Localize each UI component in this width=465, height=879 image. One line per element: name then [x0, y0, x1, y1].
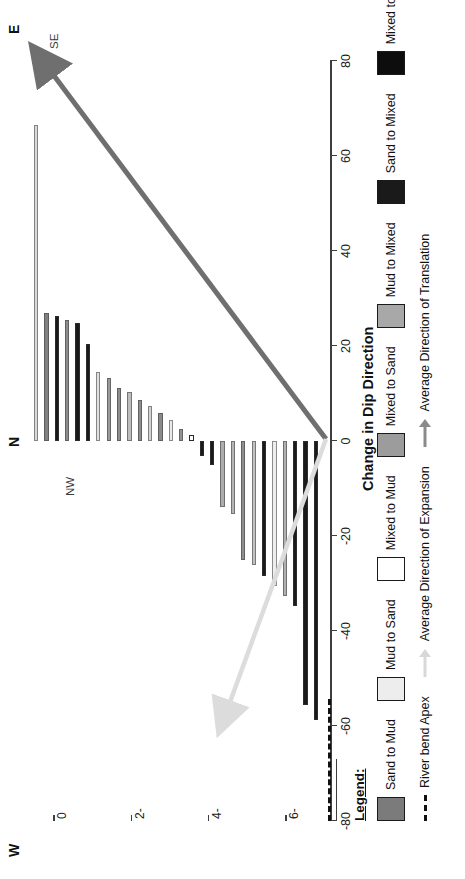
- legend: Legend: Sand to MudMud to SandMixed to M…: [352, 21, 442, 821]
- compass-label-southeast: SE: [48, 34, 60, 49]
- legend-item: Average Direction of Translation: [417, 234, 433, 449]
- legend-item-label: Mixed to Sand: [384, 346, 398, 426]
- legend-item: Sand to Mud: [377, 719, 405, 821]
- legend-item: River bend Apex: [418, 696, 432, 821]
- compass-label-east: E: [6, 25, 22, 34]
- value-tick: [330, 155, 337, 156]
- legend-item-label: River bend Apex: [418, 696, 432, 788]
- legend-item-label: Mud to Sand: [384, 599, 398, 670]
- legend-swatch: [377, 433, 405, 457]
- legend-swatch: [377, 677, 405, 701]
- compass-label-north: N: [6, 437, 22, 447]
- value-tick: [330, 630, 337, 631]
- legend-item: Mud to Mixed: [377, 222, 405, 328]
- legend-item: Mixed to Mud: [377, 475, 405, 581]
- legend-title: Legend:: [352, 21, 367, 821]
- category-axis-line: [336, 759, 337, 821]
- arrow-translation: [30, 61, 330, 821]
- legend-row-symbols: River bend ApexAverage Direction of Expa…: [408, 21, 442, 821]
- legend-item-label: Average Direction of Expansion: [418, 466, 432, 641]
- value-tick-label: -60: [339, 717, 353, 735]
- legend-item: Mixed to Sand: [377, 346, 405, 457]
- legend-swatch: [377, 180, 405, 204]
- value-tick-label: 40: [339, 244, 353, 258]
- value-tick-label: 20: [339, 339, 353, 353]
- dashed-line-icon: [418, 795, 432, 821]
- legend-item-label: Sand to Mixed: [384, 93, 398, 173]
- chart-stage: E N W SE NW -80-60-40-20020406080 02-4-6…: [0, 0, 465, 879]
- value-tick: [330, 725, 337, 726]
- value-tick-label: -20: [339, 527, 353, 545]
- value-tick-label: -80: [339, 812, 353, 830]
- value-tick-label: -40: [339, 622, 353, 640]
- legend-item-label: Mud to Mixed: [384, 222, 398, 297]
- value-tick: [330, 535, 337, 536]
- value-tick-label: 0: [339, 438, 353, 445]
- legend-item-label: Sand to Mud: [384, 719, 398, 790]
- value-tick: [330, 345, 337, 346]
- legend-swatch: [377, 797, 405, 821]
- value-tick: [330, 250, 337, 251]
- legend-item-label: Mixed to Mixed: [384, 0, 398, 44]
- arrow-up-icon: [417, 648, 433, 678]
- legend-item-label: Average Direction of Translation: [418, 234, 432, 412]
- compass-label-west: W: [6, 844, 22, 857]
- arrow-up-icon: [417, 418, 433, 448]
- legend-item: Average Direction of Expansion: [417, 466, 433, 678]
- value-tick: [330, 60, 337, 61]
- legend-item: Mixed to Mixed: [377, 0, 405, 75]
- legend-item: Sand to Mixed: [377, 93, 405, 204]
- legend-item: Mud to Sand: [377, 599, 405, 701]
- legend-swatch: [377, 51, 405, 75]
- legend-row-swatches: Sand to MudMud to SandMixed to MudMixed …: [374, 21, 408, 821]
- value-tick-label: 80: [339, 54, 353, 68]
- legend-swatch: [377, 304, 405, 328]
- value-tick: [330, 440, 337, 441]
- value-tick-label: 60: [339, 149, 353, 163]
- legend-item-label: Mixed to Mud: [384, 475, 398, 550]
- legend-swatch: [377, 557, 405, 581]
- plot-area: -80-60-40-20020406080 02-4-6- Change in …: [30, 61, 330, 821]
